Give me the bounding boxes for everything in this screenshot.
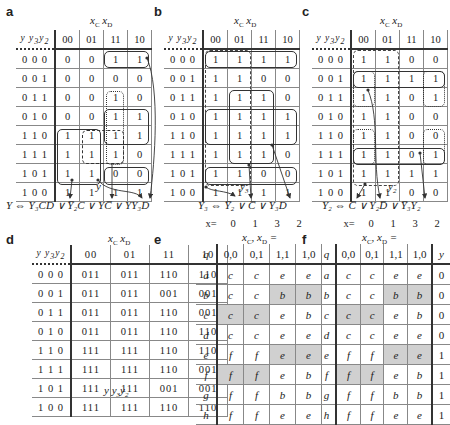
- row-label: a: [318, 264, 336, 285]
- row-label: 0 0 0: [312, 49, 351, 69]
- cell: f: [217, 345, 244, 365]
- x-value: 0: [360, 218, 382, 229]
- row-var-header: y y3y2: [32, 245, 71, 264]
- table-row: dccee0: [318, 325, 450, 345]
- row-label: 1 1 0: [164, 126, 203, 145]
- row-label: 0 1 1: [164, 88, 203, 107]
- x-value: 2: [288, 218, 310, 229]
- x-value: 1: [382, 218, 404, 229]
- table-row: accee: [196, 264, 322, 285]
- output-cell: 1: [432, 365, 450, 385]
- cell: e: [384, 264, 408, 285]
- panel-f-state-table: q 0,0 0,1 1,1 1,0 y accee0 bccbb0 ccceb0…: [318, 244, 450, 425]
- panel-a-equation: Y ⇔ Y₃CD ∨ Y̅₂C ∨ YC̅ ∨ YY₃D: [6, 199, 149, 212]
- cell: 111: [111, 360, 150, 379]
- cell: e: [384, 405, 408, 425]
- cell: 0: [400, 126, 424, 145]
- table-row: effee: [196, 345, 322, 365]
- col-header: 10: [276, 30, 300, 49]
- row-label: a: [196, 264, 217, 285]
- cell: 110: [150, 341, 189, 360]
- output-cell: 1: [432, 385, 450, 405]
- row-var-header: y y3y2: [312, 30, 351, 49]
- row-var-header: y y3y2: [16, 30, 55, 49]
- cell-shaded: c: [360, 305, 384, 325]
- cell: c: [360, 325, 384, 345]
- row-label: 0 0 1: [164, 69, 203, 88]
- cell: f: [244, 385, 270, 405]
- table-row: dccee: [196, 325, 322, 345]
- row-label: d: [318, 325, 336, 345]
- table-row: 0 0 10000: [16, 69, 152, 88]
- cell: 011: [111, 303, 150, 322]
- cell: 0: [80, 88, 104, 107]
- cell-shaded: e: [384, 345, 408, 365]
- cell: 011: [111, 284, 150, 303]
- cell: c: [244, 285, 270, 305]
- cell: e: [408, 405, 432, 425]
- row-label: 1 1 0: [312, 126, 351, 145]
- cell-shaded: b: [384, 285, 408, 305]
- panel-b-equation: Y₃ ⇔ Y̅₂ ∨ C̅ ∨ Y₃D: [198, 199, 287, 212]
- cell-shaded: f: [336, 365, 360, 385]
- cell: 0: [400, 107, 424, 126]
- table-row: accee0: [318, 264, 450, 285]
- panel-b-group-loop: [205, 167, 297, 185]
- col-header: 00: [351, 30, 376, 49]
- q-header: q: [318, 244, 336, 264]
- table-row: hffee1: [318, 405, 450, 425]
- cell: 110: [150, 303, 189, 322]
- panel-e-state-table: q 0,0 0,1 1,1 1,0 accee bccbb ccceb dcce…: [196, 244, 322, 425]
- cell: 011: [111, 264, 150, 284]
- cell: e: [270, 264, 296, 285]
- panel-c-group-loop: [353, 129, 375, 165]
- cell: f: [336, 385, 360, 405]
- row-label: 1 0 0: [32, 398, 71, 417]
- output-cell: 0: [432, 325, 450, 345]
- row-label: 0 0 1: [32, 284, 71, 303]
- panel-a-letter: a: [6, 4, 13, 19]
- row-label: 1 1 1: [164, 145, 203, 164]
- cell: 0: [424, 49, 448, 69]
- row-label: 1 1 0: [16, 126, 55, 145]
- cell: 0: [424, 183, 448, 202]
- col-header: 1,1: [384, 244, 408, 264]
- cell: 0: [80, 49, 104, 69]
- row-label: 1 1 1: [312, 145, 351, 164]
- table-row: gffbb1: [318, 385, 450, 405]
- cell-shaded: c: [217, 305, 244, 325]
- cell: 0: [128, 69, 152, 88]
- col-header: 1,1: [270, 244, 296, 264]
- cell: f: [244, 405, 270, 425]
- cell: f: [217, 385, 244, 405]
- x-value: 3: [266, 218, 288, 229]
- table-row: hffee: [196, 405, 322, 425]
- cell: 0: [424, 107, 448, 126]
- cell: 0: [252, 69, 276, 88]
- col-header: 10: [424, 30, 448, 49]
- cell: 0: [104, 69, 128, 88]
- cell: 0: [55, 88, 80, 107]
- col-header: 01: [228, 30, 252, 49]
- row-label: f: [318, 365, 336, 385]
- row-label: 0 0 0: [164, 49, 203, 69]
- row-label: 1 1 1: [32, 360, 71, 379]
- cell: 011: [71, 264, 111, 284]
- cell: 0: [128, 145, 152, 164]
- panel-d-bottom-label: y y3y2: [104, 384, 128, 399]
- cell-shaded: b: [408, 285, 432, 305]
- cell: 011: [71, 284, 111, 303]
- row-label: c: [318, 305, 336, 325]
- x-label: x=: [338, 218, 360, 229]
- row-label: h: [196, 405, 217, 425]
- row-label: h: [318, 405, 336, 425]
- row-label: d: [196, 325, 217, 345]
- row-label: 1 1 1: [16, 145, 55, 164]
- row-label: e: [318, 345, 336, 365]
- cell: f: [336, 345, 360, 365]
- cell-shaded: f: [217, 365, 244, 385]
- output-cell: 0: [432, 305, 450, 325]
- panel-c-group-loop: [423, 129, 445, 165]
- cell-shaded: b: [270, 285, 296, 305]
- cell: 110: [150, 360, 189, 379]
